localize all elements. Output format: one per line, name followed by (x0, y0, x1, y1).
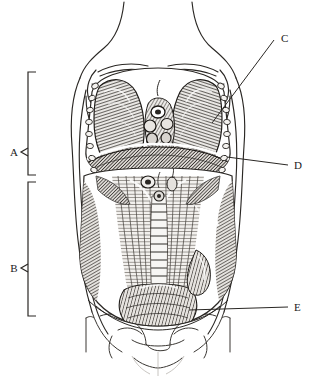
label-d: D (294, 159, 302, 171)
label-e: E (294, 301, 301, 313)
anatomy-figure: A B C D E (0, 0, 316, 378)
label-a: A (10, 146, 18, 158)
label-b: B (10, 262, 17, 274)
label-c: C (281, 32, 288, 44)
